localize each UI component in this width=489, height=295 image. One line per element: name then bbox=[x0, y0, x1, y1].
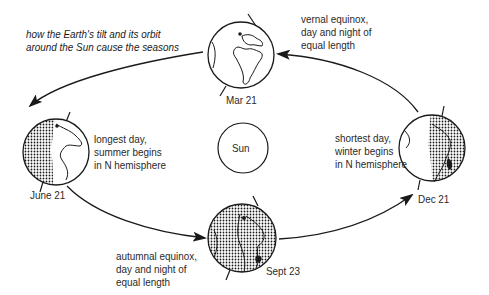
june21-desc-line2: summer begins bbox=[94, 146, 162, 159]
earth-dec21 bbox=[399, 106, 470, 190]
arrow-dec-to-mar bbox=[278, 54, 418, 112]
arrow-mar-to-june bbox=[30, 52, 203, 106]
june21-desc-line3: in N hemisphere bbox=[94, 159, 166, 172]
sept23-desc-line1: autumnal equinox, bbox=[116, 250, 197, 263]
earth-mar21 bbox=[208, 14, 274, 96]
dec21-desc-line1: shortest day, bbox=[335, 132, 391, 145]
arrow-june-to-sept bbox=[67, 186, 205, 238]
arrow-sept-to-dec bbox=[279, 195, 412, 239]
dec21-desc-line3: in N hemisphere bbox=[335, 158, 407, 171]
june21-date-label: June 21 bbox=[30, 189, 65, 202]
sept23-desc-line3: equal length bbox=[116, 276, 170, 289]
sept23-desc-line2: day and night of bbox=[116, 263, 186, 276]
diagram-title-line1: how the Earth's tilt and its orbit bbox=[26, 28, 161, 41]
june21-desc-line1: longest day, bbox=[94, 133, 147, 146]
dec21-desc-line2: winter begins bbox=[335, 145, 393, 158]
mar21-desc-line1: vernal equinox, bbox=[301, 13, 368, 26]
mar21-desc-line2: day and night of bbox=[301, 26, 371, 39]
mar21-date-label: Mar 21 bbox=[226, 94, 257, 107]
earth-june21 bbox=[20, 112, 89, 192]
sept23-date-label: Sept 23 bbox=[266, 265, 300, 278]
dec21-date-label: Dec 21 bbox=[418, 193, 449, 206]
seasons-diagram: how the Earth's tilt and its orbit aroun… bbox=[0, 0, 489, 295]
diagram-title-line2: around the Sun cause the seasons bbox=[26, 41, 179, 54]
sun-label: Sun bbox=[232, 142, 250, 155]
mar21-desc-line3: equal length bbox=[301, 39, 355, 52]
